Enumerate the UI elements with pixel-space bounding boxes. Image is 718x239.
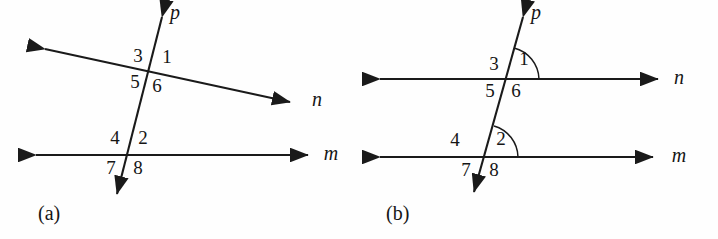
- panel-b-angle-1: 1: [519, 48, 529, 69]
- panel-a-angle-7: 7: [106, 157, 116, 178]
- panel-b-angle-2: 2: [496, 128, 506, 149]
- panel-a-caption: (a): [38, 202, 60, 225]
- panel-a-group: p n m 3 1 5 6 4 2 7 8 (a): [36, 1, 338, 225]
- panel-a-angle-1: 1: [162, 46, 172, 67]
- panel-b-label-m: m: [672, 144, 686, 166]
- panel-b-angle-7: 7: [461, 159, 471, 180]
- panel-b-angle-5: 5: [485, 80, 495, 101]
- panel-a-label-m: m: [324, 142, 338, 164]
- panel-b-caption: (b): [386, 202, 409, 225]
- panel-a-angle-6: 6: [152, 75, 162, 96]
- panel-a-angle-2: 2: [138, 127, 148, 148]
- panel-a-label-p: p: [168, 1, 180, 24]
- panel-b-label-n: n: [674, 66, 684, 88]
- panel-b-angle-4: 4: [450, 129, 460, 150]
- geometry-figure: p n m 3 1 5 6 4 2 7 8 (a): [0, 0, 718, 239]
- panel-a-angle-8: 8: [133, 157, 143, 178]
- panel-b-group: p n m 3 1 5 6 4 2 7 8 (b): [380, 1, 686, 225]
- panel-a-label-n: n: [312, 88, 322, 110]
- diagram-canvas: p n m 3 1 5 6 4 2 7 8 (a): [0, 0, 718, 239]
- panel-b-angle-3: 3: [489, 53, 499, 74]
- panel-b-angle-8: 8: [489, 159, 499, 180]
- panel-a-angle-3: 3: [133, 45, 143, 66]
- panel-a-angle-5: 5: [130, 71, 140, 92]
- panel-a-angle-4: 4: [110, 127, 120, 148]
- panel-b-label-p: p: [529, 1, 541, 24]
- panel-b-angle-6: 6: [511, 80, 521, 101]
